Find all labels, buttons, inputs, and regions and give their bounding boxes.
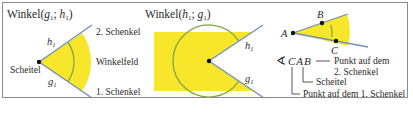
annotation-b-line1: Punkt auf dem bbox=[334, 56, 390, 66]
point-a bbox=[291, 31, 295, 35]
label-g1: g1 bbox=[245, 73, 254, 85]
panel-angle-notation: A B C ∢ CAB Punkt auf dem 2. Schenkel Sc… bbox=[276, 9, 405, 99]
angle-diagram: Winkel(g1; h1) h1 g1 Scheitel Winkelfeld… bbox=[0, 0, 413, 113]
vertex-point bbox=[207, 59, 211, 63]
panel2-title: Winkel(h1; g1) bbox=[145, 8, 211, 22]
leader-a bbox=[303, 67, 313, 82]
leader-c bbox=[292, 67, 300, 94]
annotation-c: Punkt auf dem 1. Schenkel bbox=[303, 89, 405, 99]
leg1-label: 1. Schenkel bbox=[96, 87, 141, 97]
vertex-point bbox=[37, 60, 41, 64]
panel-angle-h1-g1: Winkel(h1; g1) h1 g1 bbox=[145, 8, 264, 98]
panel-angle-g1-h1: Winkel(g1; h1) h1 g1 Scheitel Winkelfeld… bbox=[7, 8, 141, 98]
annotation-b-line2: 2. Schenkel bbox=[334, 67, 379, 77]
panel1-title: Winkel(g1; h1) bbox=[7, 8, 73, 22]
vertex-label: Scheitel bbox=[10, 65, 41, 75]
label-g1: g1 bbox=[48, 76, 57, 88]
annotation-a: Scheitel bbox=[316, 77, 347, 87]
point-c bbox=[334, 39, 338, 43]
angle-symbol: ∢ bbox=[276, 54, 286, 68]
leg2-label: 2. Schenkel bbox=[96, 27, 141, 37]
angle-field-label: Winkelfeld bbox=[96, 57, 139, 67]
point-b bbox=[320, 21, 324, 25]
angle-notation: CAB bbox=[288, 55, 312, 67]
label-a: A bbox=[280, 28, 288, 39]
label-h1: h1 bbox=[245, 40, 254, 52]
label-h1: h1 bbox=[47, 36, 56, 48]
label-b: B bbox=[317, 9, 324, 20]
label-c: C bbox=[331, 45, 339, 56]
